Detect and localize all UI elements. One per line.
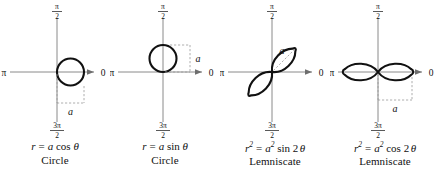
equation-coefficient-exponent: 2 xyxy=(271,140,275,149)
axis-label-3pi-over-2: 3π 2 xyxy=(156,121,170,140)
equation-coefficient: a xyxy=(48,140,54,152)
axis-label-3pi-over-2-numerator: 3π xyxy=(268,121,276,130)
equation-multiplier: 2 xyxy=(404,142,410,154)
equation-circle-sin: r=a sin θ xyxy=(110,140,220,154)
equation-function: cos xyxy=(386,142,401,154)
curve-name-lemniscate-cos: Lemniscate xyxy=(330,155,438,169)
axis-label-pi-over-2: π 2 xyxy=(267,2,277,21)
axis-label-pi-over-2-numerator: π xyxy=(270,2,274,11)
axis-arrow-icon xyxy=(305,69,312,75)
axis-label-pi-over-2-denominator: 2 xyxy=(376,12,380,21)
axis-label-3pi-over-2: 3π 2 xyxy=(265,121,279,140)
panel-lemniscate-cos: π 2 3π 2 π 0 a r2=a2 cos 2θ Lemniscate xyxy=(330,0,438,182)
axis-arrow-icon xyxy=(87,69,94,75)
caption-circle-cos: r=a cos θ Circle xyxy=(0,140,110,168)
equation-lhs-exponent: 2 xyxy=(358,140,362,149)
equation-lhs-exponent: 2 xyxy=(249,140,253,149)
axis-label-pi-over-2: π 2 xyxy=(373,2,383,21)
equation-lemniscate-sin: r2=a2 sin 2θ xyxy=(220,140,330,155)
plot-circle-sin: π 2 3π 2 π 0 a xyxy=(110,0,220,140)
dimension-label-a: a xyxy=(393,103,398,114)
axis-label-pi: π xyxy=(2,68,7,78)
curve-name-circle-cos: Circle xyxy=(0,154,110,168)
equation-coefficient: a xyxy=(159,140,165,152)
equation-function: cos xyxy=(56,140,71,152)
panel-circle-cos: π 2 3π 2 π 0 a r=a cos θ xyxy=(0,0,110,182)
axis-label-zero: 0 xyxy=(209,68,214,78)
axis-arrow-icon xyxy=(415,69,422,75)
curve-name-circle-sin: Circle xyxy=(110,154,220,168)
plot-lemniscate-cos: π 2 3π 2 π 0 a xyxy=(330,0,438,140)
equation-argument: θ xyxy=(300,142,305,154)
curve-name-lemniscate-sin: Lemniscate xyxy=(220,155,330,169)
equation-equals: = xyxy=(365,142,371,154)
equation-argument: θ xyxy=(411,142,416,154)
axis-label-pi-over-2-denominator: 2 xyxy=(55,12,59,21)
axis-label-pi-over-2-denominator: 2 xyxy=(161,12,165,21)
equation-equals: = xyxy=(256,142,262,154)
plot-circle-cos: π 2 3π 2 π 0 a xyxy=(0,0,110,140)
axis-label-3pi-over-2-denominator: 2 xyxy=(161,131,165,140)
axis-label-zero: 0 xyxy=(319,68,324,78)
axis-label-3pi-over-2: 3π 2 xyxy=(50,121,64,140)
equation-multiplier: 2 xyxy=(293,142,299,154)
dimension-label-a: a xyxy=(196,53,201,64)
equation-argument: θ xyxy=(73,140,78,152)
plot-lemniscate-sin: π 2 3π 2 π 0 a xyxy=(220,0,330,140)
equation-argument: θ xyxy=(182,140,187,152)
axis-label-3pi-over-2-numerator: 3π xyxy=(53,121,61,130)
equation-lhs: r xyxy=(31,140,35,152)
equation-coefficient-exponent: 2 xyxy=(380,140,384,149)
axis-arrow-icon xyxy=(195,69,202,75)
dimension-label-a: a xyxy=(68,106,73,117)
axis-label-pi-over-2-numerator: π xyxy=(376,2,380,11)
panel-lemniscate-sin: π 2 3π 2 π 0 a r2=a2 sin 2θ Lemniscate xyxy=(220,0,330,182)
axis-label-zero: 0 xyxy=(429,68,434,78)
equation-equals: = xyxy=(149,140,155,152)
axis-label-pi: π xyxy=(330,68,335,78)
equation-lemniscate-cos: r2=a2 cos 2θ xyxy=(330,140,438,155)
equation-circle-cos: r=a cos θ xyxy=(0,140,110,154)
equation-function: sin xyxy=(277,142,290,154)
axis-label-pi: π xyxy=(110,68,115,78)
equation-lhs: r xyxy=(142,140,146,152)
equation-equals: = xyxy=(38,140,44,152)
axis-label-pi-over-2-denominator: 2 xyxy=(270,12,274,21)
axis-label-pi-over-2-numerator: π xyxy=(161,2,165,11)
axis-label-pi: π xyxy=(220,68,225,78)
axis-label-3pi-over-2: 3π 2 xyxy=(371,121,385,140)
axis-label-pi-over-2-numerator: π xyxy=(55,2,59,11)
axis-label-3pi-over-2-denominator: 2 xyxy=(376,131,380,140)
caption-lemniscate-sin: r2=a2 sin 2θ Lemniscate xyxy=(220,140,330,169)
axis-label-3pi-over-2-denominator: 2 xyxy=(270,131,274,140)
dimension-label-a: a xyxy=(280,45,285,56)
axis-label-zero: 0 xyxy=(101,68,106,78)
caption-lemniscate-cos: r2=a2 cos 2θ Lemniscate xyxy=(330,140,438,169)
axis-label-3pi-over-2-numerator: 3π xyxy=(159,121,167,130)
axis-label-3pi-over-2-numerator: 3π xyxy=(374,121,382,130)
axis-label-pi-over-2: π 2 xyxy=(158,2,168,21)
caption-circle-sin: r=a sin θ Circle xyxy=(110,140,220,168)
axis-label-pi-over-2: π 2 xyxy=(52,2,62,21)
polar-graphs-figure: π 2 3π 2 π 0 a r=a cos θ xyxy=(0,0,438,182)
panel-circle-sin: π 2 3π 2 π 0 a r=a sin θ Circle xyxy=(110,0,220,182)
axis-label-3pi-over-2-denominator: 2 xyxy=(55,131,59,140)
equation-function: sin xyxy=(167,140,180,152)
